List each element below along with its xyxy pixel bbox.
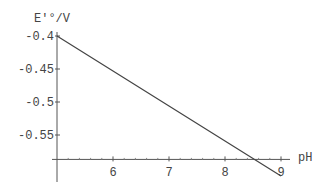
x-tick-label: 9 — [277, 166, 284, 180]
x-tick-label: 8 — [221, 166, 228, 180]
y-axis-label: E'°/V — [34, 12, 71, 26]
x-tick-label: 7 — [165, 166, 172, 180]
chart: 6789-0.4-0.45-0.5-0.55E'°/VpH — [0, 0, 327, 190]
x-tick-label: 6 — [109, 166, 116, 180]
y-tick-label: -0.5 — [25, 96, 54, 110]
y-tick-label: -0.55 — [18, 129, 54, 143]
data-line — [57, 36, 281, 176]
y-tick-label: -0.4 — [25, 30, 54, 44]
x-axis-label: pH — [298, 151, 312, 165]
plot-area: 6789-0.4-0.45-0.5-0.55E'°/VpH — [0, 0, 327, 190]
y-tick-label: -0.45 — [18, 63, 54, 77]
